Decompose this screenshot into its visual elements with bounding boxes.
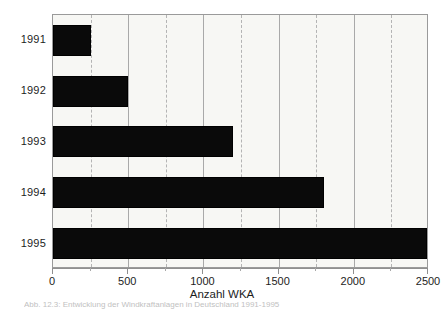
y-axis-label-1992: 1992: [0, 65, 46, 116]
x-tick-label: 2500: [416, 275, 440, 287]
plot-area: [52, 14, 428, 268]
y-axis-label-1994: 1994: [0, 166, 46, 217]
x-tick-label: 1000: [190, 275, 214, 287]
x-tick-minor: [315, 268, 316, 271]
bar-1992: [53, 76, 128, 107]
x-tick-label: 1500: [265, 275, 289, 287]
x-tick-label: 2000: [341, 275, 365, 287]
x-axis: 05001000150020002500: [52, 268, 428, 278]
x-tick-minor: [390, 268, 391, 271]
x-tick-major: [278, 268, 279, 274]
bar-1994: [53, 177, 324, 208]
bar-chart-figure: 19911992199319941995 0500100015002000250…: [0, 0, 444, 310]
y-axis-label-1993: 1993: [0, 116, 46, 167]
x-tick-major: [427, 268, 428, 274]
x-tick-label: 0: [49, 275, 55, 287]
bar-1993: [53, 126, 233, 157]
x-tick-major: [52, 268, 53, 274]
bar-1995: [53, 228, 427, 259]
y-axis-label-1995: 1995: [0, 217, 46, 268]
x-tick-major: [353, 268, 354, 274]
x-tick-minor: [90, 268, 91, 271]
bar-row: [53, 15, 427, 66]
x-axis-title: Anzahl WKA: [0, 288, 444, 300]
x-tick-minor: [165, 268, 166, 271]
bar-row: [53, 117, 427, 168]
x-tick-label: 500: [118, 275, 136, 287]
bar-1991: [53, 25, 91, 56]
bar-row: [53, 218, 427, 268]
x-tick-major: [127, 268, 128, 274]
x-tick-major: [202, 268, 203, 274]
bar-row: [53, 167, 427, 218]
bar-row: [53, 66, 427, 117]
bars-layer: [53, 15, 427, 267]
y-axis-label-1991: 1991: [0, 14, 46, 65]
figure-caption: Abb. 12.3: Entwicklung der Windkraftanla…: [24, 300, 444, 310]
y-axis-category-labels: 19911992199319941995: [0, 14, 46, 268]
x-tick-minor: [240, 268, 241, 271]
